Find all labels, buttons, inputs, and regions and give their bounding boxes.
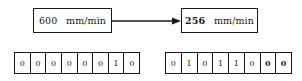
diagram-canvas: 600 mm/min 256 mm/min 00000010 01011000: [0, 0, 302, 81]
bit-cell: 0: [46, 53, 62, 73]
bit-cell: 0: [261, 53, 277, 73]
source-value-box: 600 mm/min: [33, 8, 112, 33]
target-value-unit: mm/min: [214, 15, 254, 26]
bit-cell: 0: [31, 53, 47, 73]
bit-cell: 0: [198, 53, 214, 73]
bit-cell: 0: [166, 53, 182, 73]
target-value-text: 256 mm/min: [185, 15, 254, 26]
target-value-box: 256 mm/min: [181, 8, 258, 33]
bit-cell: 0: [62, 53, 78, 73]
bit-cell: 1: [213, 53, 229, 73]
bit-cell: 1: [182, 53, 198, 73]
bit-cell: 0: [276, 53, 291, 73]
bit-cell: 0: [245, 53, 261, 73]
target-byte-row: 01011000: [165, 52, 292, 74]
source-byte-row: 00000010: [14, 52, 140, 74]
bit-cell: 1: [229, 53, 245, 73]
arrow-right-icon: [112, 14, 182, 28]
source-value-unit: mm/min: [66, 15, 106, 26]
source-value-text: 600 mm/min: [39, 15, 106, 26]
bit-cell: 1: [109, 53, 125, 73]
bit-cell: 0: [78, 53, 94, 73]
bit-cell: 0: [93, 53, 109, 73]
source-value-number: 600: [39, 15, 57, 26]
bit-cell: 0: [124, 53, 139, 73]
bit-cell: 0: [15, 53, 31, 73]
target-value-number: 256: [185, 15, 205, 26]
